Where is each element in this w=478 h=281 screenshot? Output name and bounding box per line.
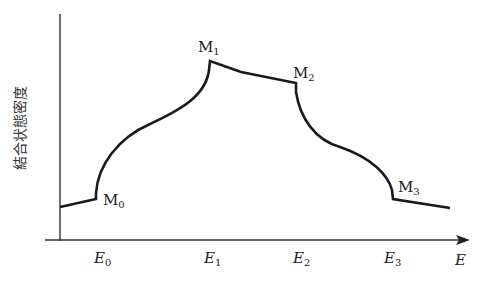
tick-e0: E0 bbox=[93, 249, 111, 268]
tick-e1: E1 bbox=[203, 249, 221, 268]
density-curve bbox=[60, 61, 450, 208]
density-of-states-diagram: M0 M1 M2 M3 E0 E1 E2 E3 E bbox=[0, 0, 478, 281]
x-axis-label: E bbox=[454, 251, 466, 269]
label-m0: M0 bbox=[103, 191, 125, 210]
label-m2: M2 bbox=[293, 64, 315, 83]
tick-e3: E3 bbox=[383, 249, 401, 268]
tick-e2: E2 bbox=[292, 249, 310, 268]
label-m3: M3 bbox=[398, 178, 420, 197]
label-m1: M1 bbox=[198, 38, 220, 57]
